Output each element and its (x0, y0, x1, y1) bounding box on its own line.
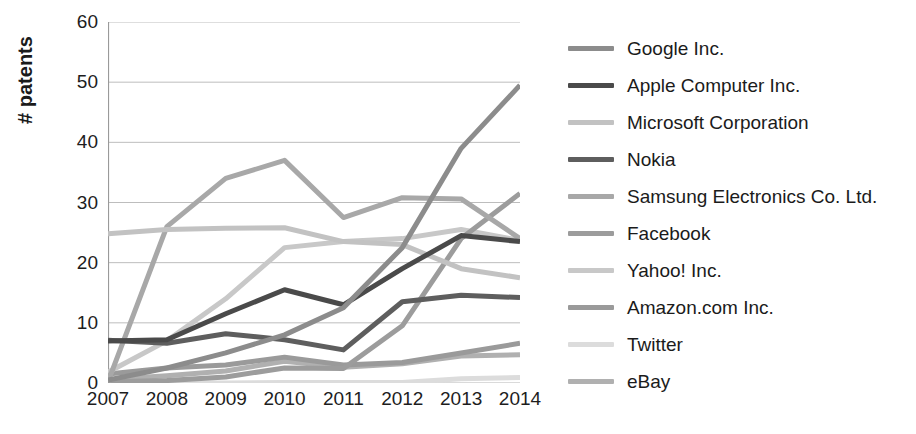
x-axis-tick-labels: 20072008200920102011201220132014 (108, 388, 520, 418)
legend-color-swatch-icon (568, 379, 614, 384)
legend-item[interactable]: Facebook (568, 215, 916, 252)
legend-color-swatch-icon (568, 268, 614, 273)
legend-item-label: Samsung Electronics Co. Ltd. (627, 186, 877, 208)
y-tick-label: 20 (54, 253, 98, 272)
x-tick-label: 2011 (315, 388, 371, 410)
y-tick-label: 10 (54, 313, 98, 332)
x-tick-label: 2013 (433, 388, 489, 410)
legend-color-swatch-icon (568, 46, 614, 51)
series-line (108, 230, 520, 373)
legend-item-label: Apple Computer Inc. (627, 75, 800, 97)
legend-item-label: eBay (627, 371, 670, 393)
series-group (108, 85, 520, 383)
x-tick-label: 2014 (492, 388, 548, 410)
y-tick-label: 60 (54, 12, 98, 31)
legend-color-swatch-icon (568, 157, 614, 162)
x-tick-label: 2010 (257, 388, 313, 410)
legend-color-swatch-icon (568, 231, 614, 236)
legend-item-label: Nokia (627, 149, 676, 171)
legend-color-swatch-icon (568, 194, 614, 199)
plot-area (108, 22, 520, 383)
y-tick-label: 50 (54, 72, 98, 91)
legend: Google Inc.Apple Computer Inc.Microsoft … (568, 30, 916, 400)
legend-item-label: Facebook (627, 223, 710, 245)
y-tick-label: 30 (54, 193, 98, 212)
legend-color-swatch-icon (568, 305, 614, 310)
y-tick-label: 40 (54, 132, 98, 151)
legend-item[interactable]: Nokia (568, 141, 916, 178)
plot-svg (108, 22, 520, 383)
line-chart: # patents 0102030405060 2007200820092010… (0, 0, 560, 434)
legend-item-label: Twitter (627, 334, 683, 356)
legend-color-swatch-icon (568, 83, 614, 88)
y-axis-tick-labels: 0102030405060 (46, 0, 98, 434)
x-tick-label: 2007 (80, 388, 136, 410)
legend-item-label: Yahoo! Inc. (627, 260, 722, 282)
x-tick-label: 2009 (198, 388, 254, 410)
legend-item-label: Google Inc. (627, 38, 724, 60)
legend-item[interactable]: Amazon.com Inc. (568, 289, 916, 326)
legend-item[interactable]: Apple Computer Inc. (568, 67, 916, 104)
legend-item[interactable]: Twitter (568, 326, 916, 363)
legend-item[interactable]: Microsoft Corporation (568, 104, 916, 141)
legend-item[interactable]: Samsung Electronics Co. Ltd. (568, 178, 916, 215)
legend-item[interactable]: eBay (568, 363, 916, 400)
y-axis-label: # patents (14, 10, 37, 150)
series-line (108, 236, 520, 341)
x-tick-label: 2012 (374, 388, 430, 410)
x-tick-label: 2008 (139, 388, 195, 410)
legend-color-swatch-icon (568, 342, 614, 347)
legend-item[interactable]: Yahoo! Inc. (568, 252, 916, 289)
legend-color-swatch-icon (568, 120, 614, 125)
legend-item-label: Amazon.com Inc. (627, 297, 774, 319)
chart-screenshot: # patents 0102030405060 2007200820092010… (0, 0, 916, 434)
series-line (108, 160, 520, 381)
legend-item-label: Microsoft Corporation (627, 112, 809, 134)
gridlines (108, 22, 520, 383)
legend-item[interactable]: Google Inc. (568, 30, 916, 67)
